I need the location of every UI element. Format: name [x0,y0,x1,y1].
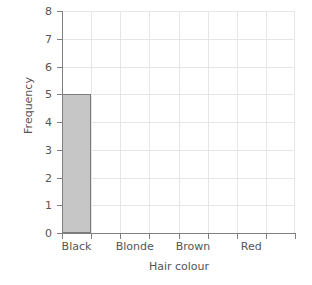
y-axis-tick [57,39,62,40]
gridline-vertical [266,11,267,233]
plot-area [62,11,295,233]
y-axis-tick [57,178,62,179]
x-axis-tick [91,234,92,239]
gridline-vertical [179,11,180,233]
y-axis-tick-label: 0 [12,228,52,239]
x-axis-tick [62,234,63,239]
x-axis-category-label-blonde: Blonde [105,241,165,253]
gridline-vertical [208,11,209,233]
gridline-vertical [237,11,238,233]
y-axis-tick-label: 1 [12,200,52,211]
x-axis-tick [237,234,238,239]
y-axis-tick [57,11,62,12]
x-axis-tick [266,234,267,239]
x-axis-tick [179,234,180,239]
gridline-vertical [294,11,295,233]
y-axis-tick-label: 3 [12,145,52,156]
bar-chart: 8 7 6 5 4 3 2 1 0 Black Blonde Brown Red… [0,0,312,285]
x-axis-tick [295,234,296,239]
x-axis-tick [149,234,150,239]
gridline-vertical [120,11,121,233]
x-axis-tick [208,234,209,239]
x-axis-tick [120,234,121,239]
y-axis-tick [57,94,62,95]
y-axis-tick-label: 7 [12,34,52,45]
x-axis-category-label-black: Black [47,241,107,253]
y-axis-title: Frequency [23,66,34,146]
y-axis-line [62,11,63,234]
y-axis-tick [57,205,62,206]
y-axis-tick [57,150,62,151]
y-axis-tick [57,67,62,68]
gridline-vertical [91,11,92,233]
x-axis-category-label-red: Red [221,241,281,253]
y-axis-tick-label: 8 [12,6,52,17]
y-axis-tick [57,122,62,123]
gridline-vertical [149,11,150,233]
y-axis-tick-label: 2 [12,173,52,184]
bar-black [62,94,91,233]
x-axis-category-label-brown: Brown [163,241,223,253]
x-axis-title: Hair colour [62,261,296,273]
